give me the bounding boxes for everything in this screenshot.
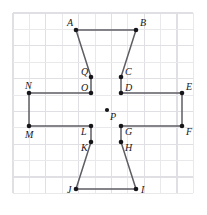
- vertex-label-n: N: [24, 80, 33, 91]
- vertex-dot-p: [105, 108, 109, 112]
- vertex-label-h: H: [124, 142, 133, 153]
- vertex-dot-f: [180, 124, 185, 129]
- vertex-dot-d: [119, 91, 124, 96]
- figure-canvas: ABCDEFGHIJKLMNOQP: [0, 0, 207, 215]
- vertex-label-o: O: [81, 82, 88, 93]
- vertex-dot-e: [180, 91, 185, 96]
- vertex-dot-k: [89, 140, 94, 145]
- vertex-label-e: E: [185, 81, 192, 92]
- vertex-label-l: L: [80, 126, 87, 137]
- vertex-label-f: F: [185, 126, 193, 137]
- vertex-dot-a: [74, 28, 79, 33]
- vertex-label-d: D: [124, 82, 133, 93]
- vertex-dot-m: [27, 124, 32, 129]
- vertex-label-b: B: [140, 17, 146, 28]
- vertex-label-j: J: [67, 184, 72, 195]
- vertex-dot-c: [119, 75, 124, 80]
- vertex-dot-i: [134, 187, 139, 192]
- vertex-dot-g: [119, 124, 124, 129]
- vertex-dot-b: [134, 28, 139, 33]
- vertex-labels: ABCDEFGHIJKLMNOQP: [24, 17, 193, 195]
- vertex-label-q: Q: [81, 66, 89, 77]
- vertex-dot-q: [89, 75, 94, 80]
- vertex-dot-o: [89, 91, 94, 96]
- background-grid: [13, 13, 193, 193]
- geometry-figure: ABCDEFGHIJKLMNOQP: [0, 0, 207, 215]
- vertex-label-p: P: [109, 111, 116, 122]
- vertex-dot-l: [89, 124, 94, 129]
- vertex-label-a: A: [66, 17, 74, 28]
- vertex-dot-j: [74, 187, 79, 192]
- vertex-label-c: C: [125, 66, 132, 77]
- vertex-label-m: M: [24, 129, 34, 140]
- vertex-dot-n: [27, 91, 32, 96]
- vertex-dot-h: [119, 140, 124, 145]
- vertex-label-i: I: [140, 184, 145, 195]
- vertex-label-k: K: [80, 142, 89, 153]
- vertex-label-g: G: [125, 126, 132, 137]
